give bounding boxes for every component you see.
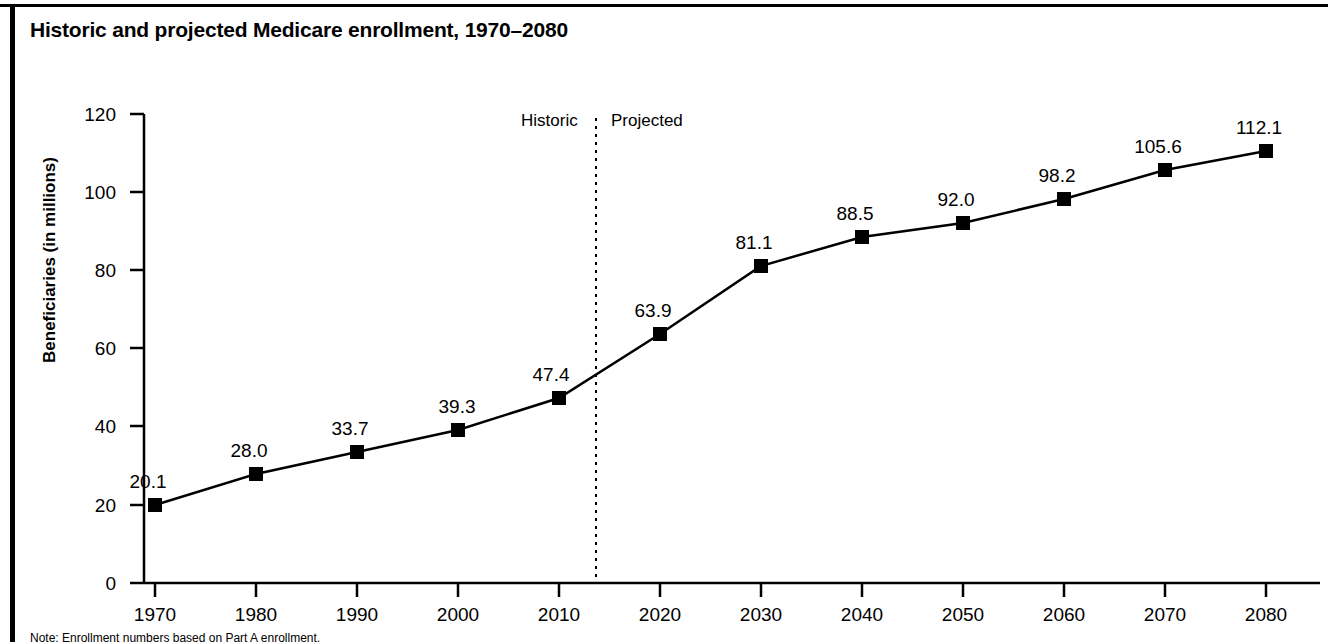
x-tick-label-1990: 1990 [317, 605, 397, 624]
plot-area: Beneficiaries (in millions) [0, 0, 1328, 642]
data-label-1980: 28.0 [209, 441, 289, 460]
x-tick-label-2050: 2050 [923, 605, 1003, 624]
data-label-1970: 20.1 [108, 472, 188, 491]
data-point-marker [1057, 192, 1071, 206]
data-label-2020: 63.9 [613, 301, 693, 320]
data-label-2050: 92.0 [916, 190, 996, 209]
data-point-marker [1158, 163, 1172, 177]
data-label-2070: 105.6 [1118, 137, 1198, 156]
data-point-marker [855, 230, 869, 244]
data-point-marker [148, 498, 162, 512]
x-tick-label-2030: 2030 [721, 605, 801, 624]
y-tick-label-120: 120 [64, 105, 116, 124]
series-line [155, 151, 1266, 505]
chart-canvas [0, 0, 1328, 642]
y-tick-label-20: 20 [64, 496, 116, 515]
chart-figure: Historic and projected Medicare enrollme… [0, 0, 1328, 642]
data-point-marker [350, 445, 364, 459]
data-label-2030: 81.1 [714, 233, 794, 252]
x-tick-label-2010: 2010 [519, 605, 599, 624]
y-tick-label-100: 100 [64, 183, 116, 202]
data-label-1990: 33.7 [310, 419, 390, 438]
y-tick-label-0: 0 [64, 574, 116, 593]
y-axis-ticks [130, 114, 144, 583]
data-point-marker [956, 216, 970, 230]
data-label-2010: 47.4 [511, 365, 591, 384]
data-point-marker [451, 423, 465, 437]
data-point-marker [249, 467, 263, 481]
projected-label: Projected [611, 112, 683, 129]
data-point-marker [1259, 144, 1273, 158]
x-tick-label-2000: 2000 [418, 605, 498, 624]
x-tick-label-2040: 2040 [822, 605, 902, 624]
x-tick-label-2080: 2080 [1226, 605, 1306, 624]
y-tick-label-60: 60 [64, 339, 116, 358]
data-point-marker [754, 259, 768, 273]
y-tick-label-40: 40 [64, 417, 116, 436]
x-axis-ticks [155, 583, 1266, 597]
x-tick-label-2020: 2020 [620, 605, 700, 624]
x-tick-label-1970: 1970 [115, 605, 195, 624]
data-label-2080: 112.1 [1219, 118, 1299, 137]
data-point-marker [653, 327, 667, 341]
x-tick-label-2070: 2070 [1125, 605, 1205, 624]
series-markers [148, 144, 1273, 512]
data-label-2060: 98.2 [1017, 166, 1097, 185]
data-label-2040: 88.5 [815, 204, 895, 223]
y-tick-label-80: 80 [64, 261, 116, 280]
chart-note: Note: Enrollment numbers based on Part A… [30, 631, 320, 642]
data-point-marker [552, 391, 566, 405]
historic-label: Historic [521, 112, 578, 129]
x-tick-label-2060: 2060 [1024, 605, 1104, 624]
x-tick-label-1980: 1980 [216, 605, 296, 624]
data-label-2000: 39.3 [417, 397, 497, 416]
